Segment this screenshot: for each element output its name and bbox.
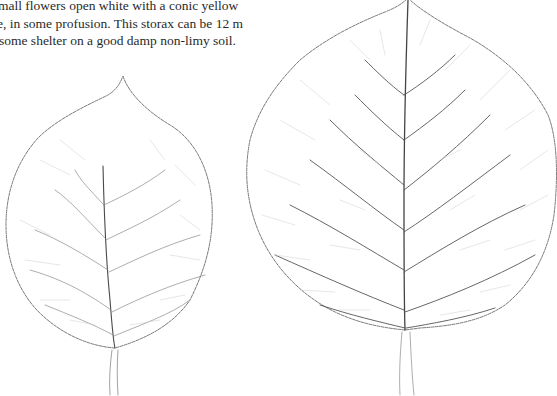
small-leaf-petiole xyxy=(110,350,118,395)
small-leaf-veins xyxy=(30,170,205,336)
large-leaf-outline xyxy=(247,0,557,330)
leaf-illustrations xyxy=(0,0,557,396)
small-leaf-outline xyxy=(6,76,212,348)
small-leaf-midrib xyxy=(103,166,115,348)
large-leaf-midrib xyxy=(404,0,408,330)
large-leaf-petiole xyxy=(400,332,414,395)
large-leaf-illustration xyxy=(247,0,557,395)
small-leaf-illustration xyxy=(6,76,212,395)
